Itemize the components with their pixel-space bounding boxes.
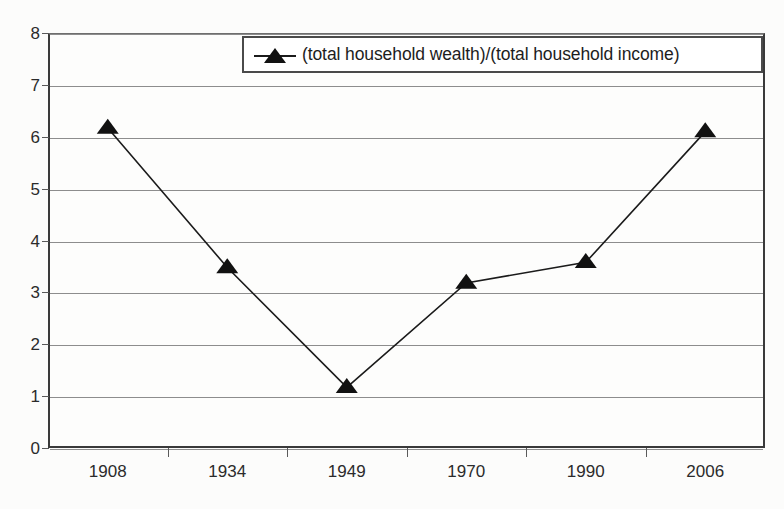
gridline — [50, 86, 763, 87]
y-axis-tick-label: 1 — [14, 388, 40, 405]
y-axis-tick-label: 2 — [14, 336, 40, 353]
y-axis-tick-mark — [42, 241, 49, 242]
x-axis-tick-label: 2006 — [645, 463, 765, 480]
gridline — [50, 345, 763, 346]
legend-label: (total household wealth)/(total househol… — [302, 44, 679, 65]
y-axis-tick-mark — [42, 137, 49, 138]
x-axis-tick-label: 1970 — [406, 463, 526, 480]
chart-legend: (total household wealth)/(total househol… — [242, 36, 763, 73]
x-axis-tick-mark — [646, 448, 647, 457]
x-axis-tick-label: 1934 — [167, 463, 287, 480]
gridline — [50, 138, 763, 139]
y-axis: 012345678 — [0, 0, 40, 509]
y-axis-tick-mark — [42, 396, 49, 397]
x-axis-tick-mark — [526, 448, 527, 457]
y-axis-tick-label: 7 — [14, 76, 40, 93]
x-axis-tick-mark — [168, 448, 169, 457]
plot-area — [48, 33, 765, 448]
x-axis-tick-label: 1990 — [526, 463, 646, 480]
y-axis-tick-mark — [42, 344, 49, 345]
x-axis-tick-mark — [287, 448, 288, 457]
y-axis-tick-mark — [42, 189, 49, 190]
y-axis-tick-mark — [42, 33, 49, 34]
gridline — [50, 293, 763, 294]
x-axis-tick-mark — [407, 448, 408, 457]
triangle-marker-icon — [254, 46, 296, 64]
y-axis-tick-label: 5 — [14, 180, 40, 197]
gridline — [50, 34, 763, 35]
y-axis-tick-label: 4 — [14, 232, 40, 249]
gridline — [50, 397, 763, 398]
gridline — [50, 190, 763, 191]
gridline — [50, 242, 763, 243]
y-axis-tick-label: 3 — [14, 284, 40, 301]
chart-figure: 012345678 (total household wealth)/(tota… — [0, 0, 784, 509]
x-axis-tick-label: 1949 — [287, 463, 407, 480]
x-axis-tick-label: 1908 — [48, 463, 168, 480]
y-axis-tick-label: 0 — [14, 440, 40, 457]
y-axis-tick-mark — [42, 448, 49, 449]
y-axis-tick-label: 6 — [14, 128, 40, 145]
y-axis-tick-mark — [42, 85, 49, 86]
y-axis-tick-mark — [42, 292, 49, 293]
y-axis-tick-label: 8 — [14, 25, 40, 42]
